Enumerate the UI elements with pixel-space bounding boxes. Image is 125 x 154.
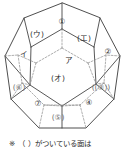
visible-edge [94,47,96,84]
hidden-edge [39,105,44,128]
hidden-edge [36,48,62,63]
face-label-fi: イ [20,50,28,59]
hidden-edge [5,55,18,56]
face-label-fu: (ウ) [30,30,44,39]
hidden-edge [88,55,106,63]
face-label-f1: ① [59,17,66,26]
face-label-fo: (オ) [51,74,65,83]
visible-edge [30,47,31,85]
hidden-edge [104,55,106,83]
hidden-edge [18,55,22,83]
face-label-f2: ② [105,47,112,56]
face-label-f6: (⑥) [13,83,26,92]
face-label-fa: ア [65,56,73,65]
caption-text: （ ）がついている面は [18,139,90,148]
face-label-f4: ④ [86,98,93,107]
hidden-edge [80,105,86,128]
polyhedron-svg: ①②((③))④(⑤)(⑥)⑦アイ(ウ)(エ)(オ) [0,0,125,135]
dodecahedron-figure: ①②((③))④(⑤)(⑥)⑦アイ(ウ)(エ)(オ) [0,0,125,135]
face-label-fe: (エ) [77,34,91,43]
face-label-f3: ((③)) [92,83,111,92]
face-label-f5: (⑤) [52,113,65,122]
visible-edge [94,18,100,47]
face-label-f7: ⑦ [35,99,42,108]
caption-mark: ※ [9,139,15,148]
caption: ※（ ）がついている面は [0,134,125,154]
